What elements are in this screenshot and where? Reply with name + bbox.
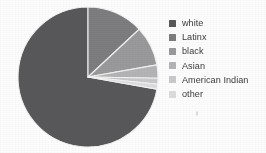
scan-speck	[196, 111, 198, 116]
legend-item-black[interactable]: black	[169, 44, 264, 58]
legend-label-other: other	[182, 89, 203, 99]
legend-swatch-other	[169, 91, 176, 98]
pie-chart-svg	[0, 0, 170, 153]
legend-swatch-american-indian	[169, 76, 176, 83]
legend-swatch-black	[169, 48, 176, 55]
chart-legend: white Latinx black Asian American Indian…	[169, 16, 264, 101]
legend-label-asian: Asian	[182, 61, 205, 71]
legend-label-white: white	[182, 18, 203, 28]
pie-chart-figure: white Latinx black Asian American Indian…	[0, 0, 266, 153]
pie-slice-group	[18, 7, 158, 147]
legend-label-latinx: Latinx	[182, 32, 207, 42]
legend-label-black: black	[182, 46, 203, 56]
pie-chart-plot-area	[0, 0, 170, 153]
legend-item-asian[interactable]: Asian	[169, 59, 264, 73]
legend-item-white[interactable]: white	[169, 16, 264, 30]
legend-swatch-latinx	[169, 34, 176, 41]
legend-swatch-white	[169, 20, 176, 27]
legend-label-american-indian: American Indian	[182, 75, 248, 85]
legend-swatch-asian	[169, 62, 176, 69]
legend-item-american-indian[interactable]: American Indian	[169, 73, 264, 87]
legend-item-other[interactable]: other	[169, 87, 264, 101]
legend-item-latinx[interactable]: Latinx	[169, 30, 264, 44]
